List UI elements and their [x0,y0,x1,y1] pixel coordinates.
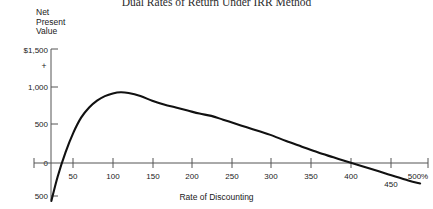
npv-curve-line [51,92,420,201]
y-tick-marks [51,49,58,196]
plot-area [0,0,433,209]
chart-figure: Dual Rates of Return Under IRR Method Ne… [0,0,433,209]
